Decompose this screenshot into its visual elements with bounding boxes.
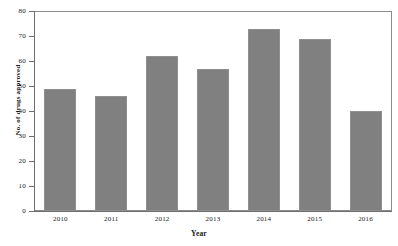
y-axis-tick: [29, 211, 34, 212]
x-axis-tick-label: 2016: [343, 215, 389, 224]
y-axis-tick: [29, 61, 34, 62]
y-axis-tick: [29, 86, 34, 87]
x-axis-tick-label: 2014: [241, 215, 287, 224]
y-axis-tick: [29, 161, 34, 162]
x-axis-tick-label: 2012: [139, 215, 185, 224]
bar[interactable]: [248, 29, 280, 212]
bar[interactable]: [44, 89, 76, 212]
bar-chart-figure: 01020304050607080 No. of drugs approved …: [0, 0, 398, 246]
y-axis-tick: [29, 11, 34, 12]
x-axis-tick-label: 2010: [37, 215, 83, 224]
y-axis-tick: [29, 36, 34, 37]
bar[interactable]: [197, 69, 229, 212]
x-axis-title: Year: [0, 229, 398, 238]
x-axis-tick-label: 2011: [88, 215, 134, 224]
y-axis-tick-label: 80: [2, 7, 26, 15]
y-axis-tick: [29, 186, 34, 187]
bars-layer: [35, 11, 391, 211]
y-axis-tick: [29, 136, 34, 137]
x-axis-line: [34, 211, 392, 212]
x-axis-tick-label: 2015: [292, 215, 338, 224]
y-axis-tick-label: 0: [2, 207, 26, 215]
y-axis-title: No. of drugs approved: [14, 35, 22, 165]
bar[interactable]: [146, 56, 178, 211]
y-axis-tick-label: 10: [2, 182, 26, 190]
bar[interactable]: [350, 111, 382, 211]
x-axis-tick-label: 2013: [190, 215, 236, 224]
bar[interactable]: [95, 96, 127, 211]
y-axis-tick: [29, 111, 34, 112]
bar[interactable]: [299, 39, 331, 212]
